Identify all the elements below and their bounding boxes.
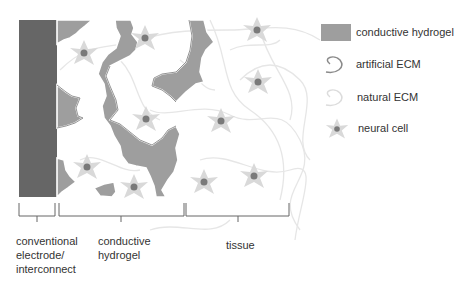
neural-cell-icon — [326, 119, 348, 139]
region-label-electrode: conventional electrode/ interconnect — [16, 234, 78, 276]
legend-label-artificial-ecm: artificial ECM — [356, 58, 421, 70]
bracket-hydrogel — [59, 203, 184, 222]
hydrogel-top-left — [57, 20, 92, 44]
electrode-block — [19, 20, 57, 197]
hydrogel-swatch-icon — [321, 24, 351, 41]
region-label-tissue: tissue — [226, 238, 255, 252]
hydrogel-left-bottom — [57, 158, 76, 197]
legend-label-conductive-hydrogel: conductive hydrogel — [356, 26, 454, 38]
region-label-hydrogel: conductive hydrogel — [98, 234, 151, 262]
bracket-electrode — [19, 203, 55, 222]
legend-label-natural-ecm: natural ECM — [357, 91, 418, 103]
natural-ecm-icon — [326, 90, 342, 105]
hydrogel-small-bottom — [94, 182, 116, 197]
legend-label-neural-cell: neural cell — [358, 122, 408, 134]
hydrogel-left-mid — [57, 85, 83, 128]
artificial-ecm-icon — [326, 57, 342, 72]
bracket-tissue — [186, 203, 289, 222]
region-brackets — [19, 203, 289, 222]
